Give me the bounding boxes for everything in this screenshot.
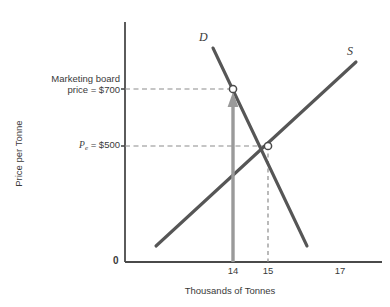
marketing-board-price-line2: price = $700 <box>67 84 120 95</box>
chart-canvas <box>0 0 390 307</box>
supply-demand-chart: Price per Tonne Thousands of Tonnes 0 Ma… <box>0 0 390 307</box>
equilibrium-point-marker <box>264 142 271 149</box>
equilibrium-price-value: = $500 <box>88 139 120 150</box>
x-tick-label-15: 15 <box>255 265 281 276</box>
x-tick-label-17: 17 <box>327 265 353 276</box>
demand-curve-label: D <box>199 30 208 44</box>
supply-curve-label: S <box>347 44 353 58</box>
x-tick-label-14: 14 <box>220 265 246 276</box>
x-axis-title: Thousands of Tonnes <box>160 285 300 296</box>
marketing-board-price-line1: Marketing board <box>51 73 120 84</box>
origin-label: 0 <box>113 255 119 267</box>
marketing-board-point-marker <box>229 85 236 92</box>
y-axis-title: Price per Tonne <box>13 99 24 209</box>
demand-curve <box>213 48 307 246</box>
equilibrium-price-label: Pe = $500 <box>40 139 120 152</box>
marketing-board-price-label: Marketing boardprice = $700 <box>20 73 120 95</box>
